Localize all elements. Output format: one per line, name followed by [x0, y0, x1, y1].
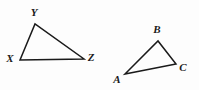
vertex-label-x: X [6, 53, 13, 64]
diagram-canvas: X Y Z A B C [0, 0, 199, 90]
vertex-label-b: B [153, 24, 160, 35]
triangle-xyz-outline [20, 24, 84, 60]
vertex-label-a: A [113, 74, 120, 85]
vertex-label-z: Z [88, 52, 95, 63]
vertex-label-y: Y [31, 7, 38, 18]
vertex-label-c: C [179, 62, 186, 73]
triangle-abc-outline [125, 41, 176, 74]
